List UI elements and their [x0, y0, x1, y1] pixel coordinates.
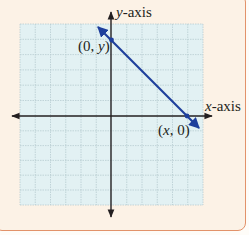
coordinate-plane — [0, 0, 249, 235]
x-axis-label: x-axis — [205, 99, 241, 114]
y-intercept-point — [109, 38, 114, 43]
y-axis-label: y-axis — [116, 5, 152, 20]
x-intercept-label: (x, 0) — [158, 123, 190, 138]
y-intercept-label: (0, y) — [78, 39, 110, 54]
x-intercept-point — [185, 114, 190, 119]
